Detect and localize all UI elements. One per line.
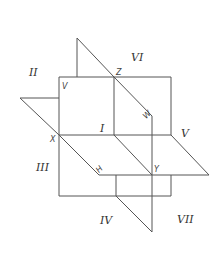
region-label-iii: III [35, 161, 50, 174]
three-planes-diagram: II VI I V III IV VII V Z W X H Y [0, 0, 223, 255]
region-label-v: V [181, 127, 190, 140]
point-label-h: H [94, 164, 105, 175]
point-label-x: X [49, 135, 56, 144]
point-label-y: Y [154, 165, 160, 174]
region-label-iv: IV [99, 214, 113, 227]
point-label-v: V [62, 82, 68, 91]
region-label-vii: VII [177, 213, 194, 226]
region-label-ii: II [28, 66, 38, 79]
point-label-z: Z [115, 68, 122, 77]
region-label-i: I [99, 122, 105, 135]
region-label-vi: VI [131, 51, 144, 64]
